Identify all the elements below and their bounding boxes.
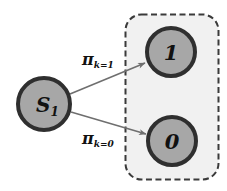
s1-main: S bbox=[36, 93, 50, 117]
node-1-label: 1 bbox=[164, 40, 179, 65]
pi-k1-subscript: k=1 bbox=[94, 60, 114, 70]
edge-pi-k0-label: πk=0 bbox=[81, 129, 114, 149]
pi-symbol: π bbox=[81, 129, 94, 148]
probability-diagram: πk=1 πk=0 S1 1 0 bbox=[0, 0, 227, 191]
node-0-label: 0 bbox=[165, 129, 180, 154]
edge-pi-k1-label: πk=1 bbox=[81, 50, 114, 70]
pi-symbol: π bbox=[81, 50, 94, 69]
s1-subscript: 1 bbox=[50, 105, 58, 119]
diagram-canvas: πk=1 πk=0 S1 1 0 bbox=[0, 0, 227, 191]
pi-k0-subscript: k=0 bbox=[94, 139, 115, 149]
